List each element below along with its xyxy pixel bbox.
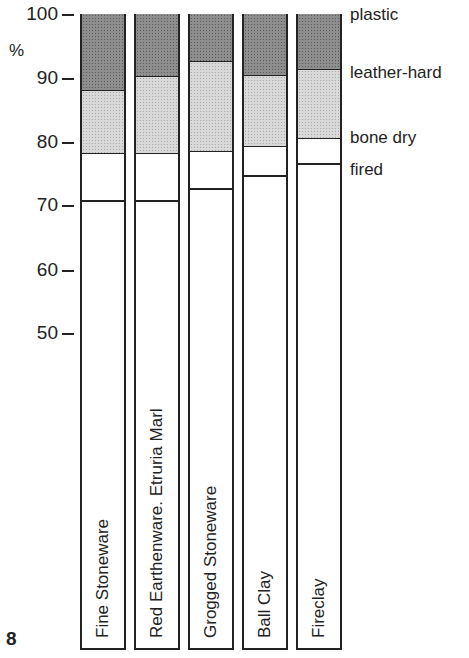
segment-plastic — [82, 14, 124, 92]
bar-label: Red Earthenware. Etruria Marl — [147, 408, 167, 638]
legend-label: leather-hard — [350, 63, 442, 83]
y-tick-label: 100 — [0, 4, 58, 24]
segment-bone-dry — [244, 147, 286, 177]
legend-label: bone dry — [350, 128, 416, 148]
y-tick-mark — [62, 14, 74, 16]
bar: Grogged Stoneware — [188, 14, 234, 650]
segment-leather-hard — [136, 77, 178, 155]
figure-number: 8 — [6, 628, 17, 650]
segment-plastic — [136, 14, 178, 78]
y-tick-mark — [62, 78, 74, 80]
bar: Fireclay — [296, 14, 342, 650]
bar: Red Earthenware. Etruria Marl — [134, 14, 180, 650]
bar-label: Grogged Stoneware — [201, 486, 221, 638]
segment-plastic — [244, 14, 286, 77]
bar-label: Fireclay — [309, 578, 329, 638]
bar: Ball Clay — [242, 14, 288, 650]
y-tick-mark — [62, 142, 74, 144]
y-tick-label: 60 — [0, 260, 58, 280]
y-axis-unit: % — [9, 41, 24, 61]
y-tick-mark — [62, 270, 74, 272]
segment-bone-dry — [82, 154, 124, 202]
y-tick-mark — [62, 205, 74, 207]
segment-leather-hard — [190, 62, 232, 153]
legend-label: plastic — [350, 5, 398, 25]
segment-leather-hard — [244, 76, 286, 148]
y-tick-label: 80 — [0, 132, 58, 152]
bar-label: Ball Clay — [255, 571, 275, 638]
segment-bone-dry — [298, 139, 340, 165]
segment-plastic — [190, 14, 232, 63]
segment-leather-hard — [298, 70, 340, 140]
segment-leather-hard — [82, 91, 124, 155]
y-tick-label: 50 — [0, 323, 58, 343]
segment-bone-dry — [136, 154, 178, 202]
segment-bone-dry — [190, 152, 232, 190]
segment-plastic — [298, 14, 340, 71]
bar: Fine Stoneware — [80, 14, 126, 650]
y-tick-mark — [62, 333, 74, 335]
legend-label: fired — [350, 160, 383, 180]
bar-label: Fine Stoneware — [93, 519, 113, 638]
y-tick-label: 70 — [0, 195, 58, 215]
y-tick-label: 90 — [0, 68, 58, 88]
